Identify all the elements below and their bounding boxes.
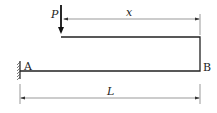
bent-beam xyxy=(20,37,200,71)
load-arrow xyxy=(58,5,64,34)
dimension-x-label: x xyxy=(126,6,133,19)
point-b-label: B xyxy=(203,61,211,74)
point-a-label: A xyxy=(23,60,33,73)
fixed-support xyxy=(17,61,20,80)
beam-diagram: P A B x L xyxy=(0,0,217,113)
load-label: P xyxy=(50,8,59,21)
dimension-l-label: L xyxy=(106,85,114,98)
